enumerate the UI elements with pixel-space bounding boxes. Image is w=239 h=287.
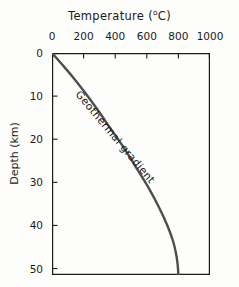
x-tick-label: 400 bbox=[105, 30, 125, 42]
y-tick-label: 20 bbox=[30, 133, 43, 145]
y-tick-label: 30 bbox=[30, 176, 43, 188]
y-tick-label: 10 bbox=[30, 90, 43, 102]
chart-title-text: Temperature ( bbox=[68, 9, 153, 23]
y-tick-label: 50 bbox=[30, 263, 43, 275]
x-tick-label: 600 bbox=[137, 30, 157, 42]
x-tick-label: 800 bbox=[168, 30, 188, 42]
chart-title-unit: C) bbox=[158, 9, 171, 23]
x-tick-label: 200 bbox=[74, 30, 94, 42]
y-tick-label: 0 bbox=[36, 47, 43, 59]
y-tick-label: 40 bbox=[30, 219, 43, 231]
x-tick-label: 1000 bbox=[197, 30, 224, 42]
y-axis-ticks bbox=[53, 54, 58, 269]
y-axis-tick-labels: 01020304050 bbox=[0, 0, 50, 287]
geothermal-gradient-curve bbox=[52, 53, 178, 275]
x-axis-ticks bbox=[53, 54, 210, 59]
chart-figure: Temperature (oC) 02004006008001000 Depth… bbox=[0, 0, 239, 287]
